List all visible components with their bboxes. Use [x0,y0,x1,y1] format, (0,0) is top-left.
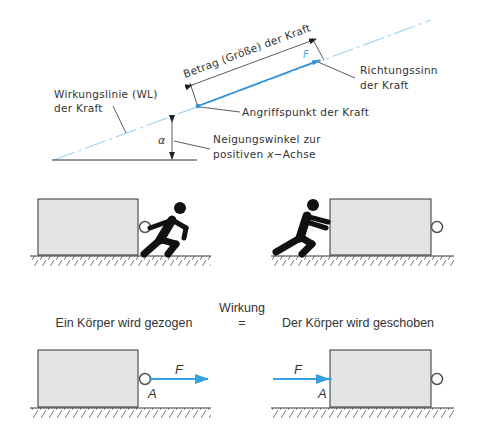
direction-leader [318,62,355,78]
ground-hatch [271,256,454,266]
box [38,350,138,407]
push-scene [271,199,454,266]
ground-hatch [30,408,211,418]
effect-label: Wirkung [219,301,265,315]
application-point-label: Angriffspunkt der Kraft [242,106,369,118]
pushing-person-icon [276,199,328,254]
pull-scene [30,199,211,266]
angle-label-line1: Neigungswinkel zur [213,133,321,145]
push-force-scene: F A [271,350,454,418]
angle-symbol: α [158,134,166,147]
push-caption: Der Körper wird geschoben [282,316,434,330]
application-point-dot [149,377,153,381]
pull-force-scene: F A [30,350,211,418]
force-symbol: F [294,362,303,377]
box [330,199,431,255]
box [38,199,138,255]
force-definition-diagram: F Betrag (Größe) der Kraft Richtungssinn… [52,20,438,160]
line-of-action-label-line1: Wirkungslinie (WL) [54,88,158,100]
ground-hatch [30,256,211,266]
pull-caption: Ein Körper wird gezogen [56,316,193,330]
line-of-action-label-line2: der Kraft [54,102,103,114]
extension-line-end [312,38,324,60]
ring [432,374,443,385]
equals-sign: = [238,316,245,330]
angle-leader [174,141,210,149]
application-point-dot [196,104,201,109]
application-point-leader [200,107,240,112]
direction-label-line2: der Kraft [360,79,409,91]
direction-label-line1: Richtungssinn [360,64,438,76]
point-symbol: A [147,386,157,401]
application-point-dot [328,377,332,381]
point-symbol: A [317,386,327,401]
box [330,350,431,407]
pull-ring [140,374,151,385]
extension-line-start [190,83,197,104]
force-symbol: F [175,362,184,377]
force-diagram: F Betrag (Größe) der Kraft Richtungssinn… [0,0,484,444]
ground-hatch [271,408,454,418]
force-symbol-label: F [303,49,309,60]
angle-label-line2: positiven x−Achse [213,148,316,160]
line-of-action-leader [113,106,126,133]
pulling-person-icon [144,202,186,254]
ring [432,222,443,233]
